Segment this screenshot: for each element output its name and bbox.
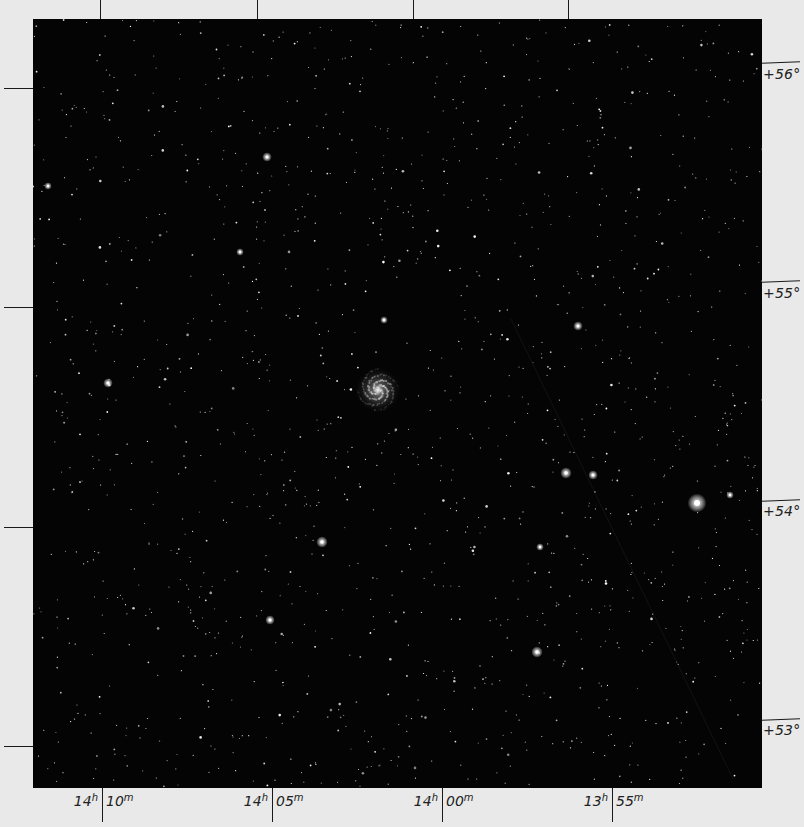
ra-tick-1400 — [442, 788, 443, 822]
dec-tick-56 — [762, 61, 800, 64]
left-tick — [4, 527, 33, 528]
dec-label-56: +56° — [763, 66, 800, 82]
dec-label-55: +55° — [763, 285, 800, 301]
left-tick — [4, 88, 33, 89]
left-tick — [4, 307, 33, 308]
satellite-trail — [511, 319, 733, 779]
dec-label-54: +54° — [763, 503, 800, 519]
left-tick — [4, 746, 33, 747]
ra-tick-1355 — [612, 788, 613, 822]
dec-tick-54 — [762, 499, 800, 502]
top-tick — [568, 0, 569, 19]
spiral-galaxy — [354, 366, 402, 414]
dec-label-53: +53° — [763, 722, 800, 738]
sky-plate — [33, 19, 762, 788]
top-tick — [257, 0, 258, 19]
dec-tick-53 — [762, 718, 800, 721]
ra-tick-1410 — [102, 788, 103, 822]
dec-tick-55 — [762, 280, 800, 283]
ra-tick-1405 — [272, 788, 273, 822]
star-field — [33, 19, 762, 788]
top-tick — [413, 0, 414, 19]
top-tick — [100, 0, 101, 19]
